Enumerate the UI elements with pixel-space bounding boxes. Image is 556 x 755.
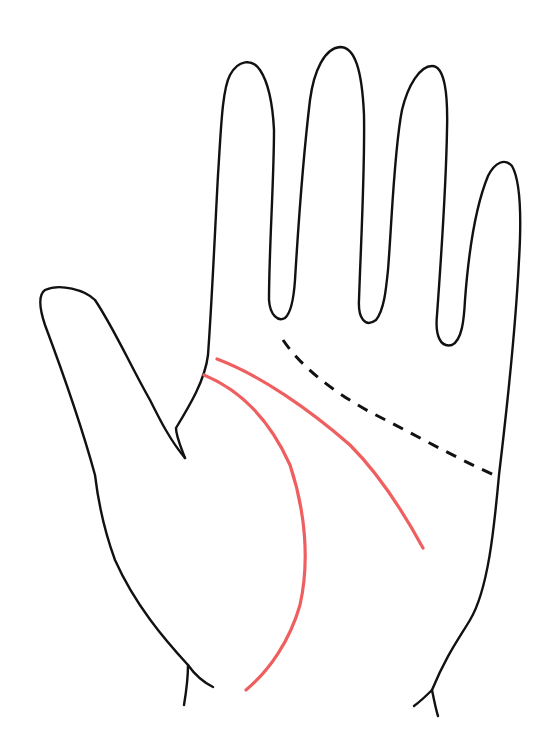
thumb-outline	[40, 287, 213, 687]
hand-illustration	[0, 0, 556, 755]
heart-line	[283, 340, 496, 476]
head-line	[217, 359, 423, 548]
wrist-tick-left	[184, 665, 188, 705]
hand-outline	[176, 47, 520, 690]
wrist-tick-right	[414, 690, 438, 716]
palm-diagram	[0, 0, 556, 755]
life-line	[204, 375, 305, 690]
